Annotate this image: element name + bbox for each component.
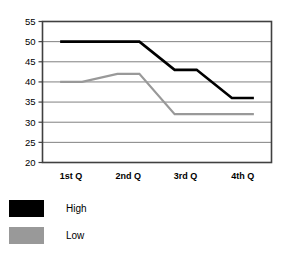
legend-label-low: Low <box>66 230 85 241</box>
line-chart: 2025303540455055 1st Q2nd Q3rd Q4th Q Hi… <box>0 0 290 262</box>
x-axis-category-labels: 1st Q2nd Q3rd Q4th Q <box>60 171 255 181</box>
y-axis-tick-label: 55 <box>25 16 36 27</box>
y-axis-tick-label: 50 <box>25 36 36 47</box>
legend-swatch-low <box>9 227 44 244</box>
chart-canvas: 2025303540455055 1st Q2nd Q3rd Q4th Q Hi… <box>0 0 290 262</box>
y-axis-tick-label: 30 <box>25 117 36 128</box>
y-axis-tick-label: 25 <box>25 137 36 148</box>
y-axis-tick-label: 45 <box>25 56 36 67</box>
y-axis-tick-label: 20 <box>25 157 36 168</box>
y-axis-tick-label: 40 <box>25 76 36 87</box>
x-axis-category-label: 1st Q <box>60 171 83 181</box>
series-line-high <box>60 42 254 98</box>
y-axis-tick-label: 35 <box>25 96 36 107</box>
legend-label-high: High <box>66 203 87 214</box>
legend-swatch-high <box>9 200 44 217</box>
x-axis-category-label: 4th Q <box>231 171 254 181</box>
data-series-group <box>60 42 254 115</box>
chart-legend: HighLow <box>9 200 87 244</box>
x-axis-category-label: 2nd Q <box>116 171 142 181</box>
x-axis-category-label: 3rd Q <box>174 171 198 181</box>
y-axis-tick-labels: 2025303540455055 <box>25 16 36 168</box>
